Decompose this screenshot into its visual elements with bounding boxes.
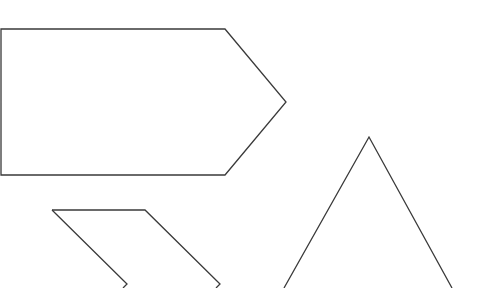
triangle-shape xyxy=(284,137,452,288)
diagram-canvas xyxy=(0,0,489,288)
chevron-top-edge xyxy=(52,210,220,288)
pentagon-arrow-shape xyxy=(1,29,286,175)
chevron-left-edge xyxy=(52,210,127,288)
